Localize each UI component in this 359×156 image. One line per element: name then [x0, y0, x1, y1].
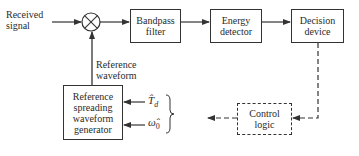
block-diagram: Received signal Reference waveform Bandp… — [0, 0, 359, 156]
bandpass-filter-block: Bandpass filter — [130, 9, 181, 43]
reference-generator-block: Reference spreading waveform generator — [63, 85, 123, 140]
energy-detector-block: Energy detector — [210, 9, 262, 43]
reference-waveform-label: Reference waveform — [96, 59, 137, 81]
control-logic-block: Control logic — [237, 103, 292, 135]
multiplier-icon — [82, 13, 100, 31]
decision-device-block: Decision device — [291, 9, 344, 43]
received-signal-label: Received signal — [6, 9, 43, 31]
brace — [166, 95, 174, 133]
delay-estimate-label: T̂d — [148, 95, 158, 110]
frequency-estimate-label: ω̂0 — [148, 117, 160, 132]
